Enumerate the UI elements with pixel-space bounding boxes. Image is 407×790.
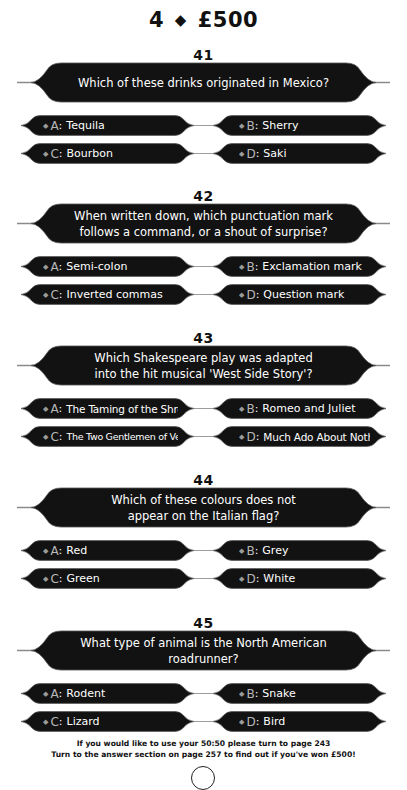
answer-letter: B xyxy=(246,260,254,274)
answer-text: Red xyxy=(66,544,87,557)
answer-text: The Two Gentlemen of Verona xyxy=(67,431,179,442)
question-text: When written down, which punctuation mar… xyxy=(47,203,360,244)
answer-letter: C xyxy=(50,572,58,586)
question-text: What type of animal is the North America… xyxy=(47,630,360,671)
footer-instructions: If you would like to use your 50:50 plea… xyxy=(0,738,407,760)
answer-text: Sherry xyxy=(262,119,298,132)
answer-option-c[interactable]: ◆ C : Green xyxy=(17,568,198,589)
answer-option-a[interactable]: ◆ A : Semi-colon xyxy=(17,256,198,277)
answer-colon: : xyxy=(59,288,63,301)
answer-text: Grey xyxy=(262,544,288,557)
diamond-icon: ◆ xyxy=(175,11,187,29)
answer-letter: B xyxy=(246,544,254,558)
bullet-icon: ◆ xyxy=(239,690,244,698)
bullet-icon: ◆ xyxy=(239,291,244,299)
answer-text: Inverted commas xyxy=(67,288,163,301)
bullet-icon: ◆ xyxy=(239,547,244,555)
bullet-icon: ◆ xyxy=(239,405,244,413)
answer-option-b[interactable]: ◆ B : Snake xyxy=(209,683,390,704)
question-number: 42 xyxy=(0,188,407,204)
answer-colon: : xyxy=(59,544,63,557)
bullet-icon: ◆ xyxy=(239,122,244,130)
answer-option-d[interactable]: ◆ D : Bird xyxy=(209,711,390,732)
question-text: Which of these colours does not appear o… xyxy=(47,487,360,528)
answer-text: Snake xyxy=(262,687,295,700)
answer-colon: : xyxy=(256,147,260,160)
bullet-icon: ◆ xyxy=(239,718,244,726)
footer-line-5050: If you would like to use your 50:50 plea… xyxy=(0,738,407,749)
answer-letter: C xyxy=(50,430,58,444)
answer-option-d[interactable]: ◆ D : White xyxy=(209,568,390,589)
bullet-icon: ◆ xyxy=(43,291,48,299)
question-number: 44 xyxy=(0,472,407,488)
question-number: 45 xyxy=(0,615,407,631)
answer-option-c[interactable]: ◆ C : The Two Gentlemen of Verona xyxy=(17,426,198,447)
bullet-icon: ◆ xyxy=(239,263,244,271)
bullet-icon: ◆ xyxy=(43,547,48,555)
answer-text: Bourbon xyxy=(67,147,113,160)
answer-option-b[interactable]: ◆ B : Sherry xyxy=(209,115,390,136)
answer-option-b[interactable]: ◆ B : Romeo and Juliet xyxy=(209,398,390,419)
answer-option-a[interactable]: ◆ A : Red xyxy=(17,540,198,561)
answer-text: Bird xyxy=(263,715,285,728)
answer-letter: D xyxy=(246,430,255,444)
answer-text: Question mark xyxy=(263,288,344,301)
answer-option-d[interactable]: ◆ D : Saki xyxy=(209,143,390,164)
bullet-icon: ◆ xyxy=(43,263,48,271)
answer-text: Semi-colon xyxy=(66,260,127,273)
question-box: Which Shakespeare play was adapted into … xyxy=(17,345,390,386)
answer-text: Saki xyxy=(263,147,286,160)
answer-text: Much Ado About Nothing xyxy=(263,431,370,443)
answer-option-b[interactable]: ◆ B : Exclamation mark xyxy=(209,256,390,277)
question-box: When written down, which punctuation mar… xyxy=(17,203,390,244)
question-box: Which of these colours does not appear o… xyxy=(17,487,390,528)
question-box: What type of animal is the North America… xyxy=(17,630,390,671)
answer-colon: : xyxy=(59,147,63,160)
answer-letter: C xyxy=(50,288,58,302)
answer-text: White xyxy=(263,572,295,585)
answer-colon: : xyxy=(59,687,63,700)
bullet-icon: ◆ xyxy=(43,690,48,698)
answer-letter: D xyxy=(246,715,255,729)
bullet-icon: ◆ xyxy=(239,433,244,441)
answer-letter: D xyxy=(246,147,255,161)
answer-colon: : xyxy=(255,119,259,132)
answer-text: Tequila xyxy=(66,119,104,132)
prize-amount: £500 xyxy=(198,8,258,32)
answer-text: Green xyxy=(67,572,100,585)
bullet-icon: ◆ xyxy=(43,405,48,413)
answer-letter: A xyxy=(50,687,58,701)
answer-colon: : xyxy=(255,544,259,557)
answer-letter: C xyxy=(50,147,58,161)
answer-option-c[interactable]: ◆ C : Bourbon xyxy=(17,143,198,164)
answer-colon: : xyxy=(256,430,260,443)
page-title: 4 ◆ £500 xyxy=(0,8,407,32)
answer-colon: : xyxy=(59,402,63,415)
answer-option-c[interactable]: ◆ C : Lizard xyxy=(17,711,198,732)
answer-option-a[interactable]: ◆ A : Tequila xyxy=(17,115,198,136)
answer-colon: : xyxy=(59,715,63,728)
answer-text: Romeo and Juliet xyxy=(262,402,355,415)
answer-letter: A xyxy=(50,119,58,133)
answer-option-b[interactable]: ◆ B : Grey xyxy=(209,540,390,561)
answer-letter: B xyxy=(246,687,254,701)
answer-letter: D xyxy=(246,572,255,586)
answer-colon: : xyxy=(256,715,260,728)
bullet-icon: ◆ xyxy=(43,122,48,130)
answer-colon: : xyxy=(59,119,63,132)
answer-option-c[interactable]: ◆ C : Inverted commas xyxy=(17,284,198,305)
question-box: Which of these drinks originated in Mexi… xyxy=(17,62,390,103)
answer-option-a[interactable]: ◆ A : The Taming of the Shrew xyxy=(17,398,198,419)
answer-colon: : xyxy=(59,430,63,443)
question-number: 43 xyxy=(0,330,407,346)
answer-option-d[interactable]: ◆ D : Question mark xyxy=(209,284,390,305)
answer-option-a[interactable]: ◆ A : Rodent xyxy=(17,683,198,704)
answer-colon: : xyxy=(256,572,260,585)
answer-letter: A xyxy=(50,544,58,558)
answer-option-d[interactable]: ◆ D : Much Ado About Nothing xyxy=(209,426,390,447)
answer-text: Rodent xyxy=(66,687,105,700)
bullet-icon: ◆ xyxy=(43,433,48,441)
bullet-icon: ◆ xyxy=(239,150,244,158)
answer-letter: A xyxy=(50,260,58,274)
answer-letter: C xyxy=(50,715,58,729)
